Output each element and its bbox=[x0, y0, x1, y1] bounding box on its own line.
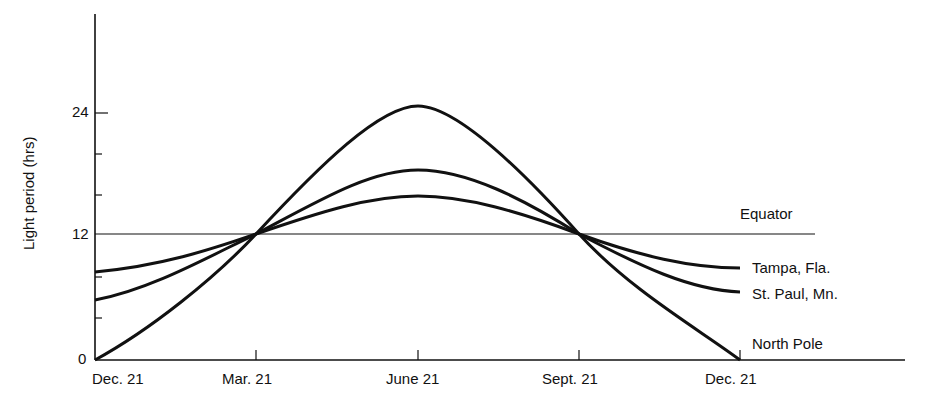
x-tick-dec21-start: Dec. 21 bbox=[92, 370, 144, 387]
y-axis-label: Light period (hrs) bbox=[20, 137, 37, 250]
y-tick-0: 0 bbox=[78, 350, 86, 367]
x-tick-june21: June 21 bbox=[386, 370, 439, 387]
x-tick-dec21-end: Dec. 21 bbox=[705, 370, 757, 387]
stpaul-curve bbox=[95, 170, 740, 300]
northpole-curve bbox=[95, 106, 740, 360]
equator-label: Equator bbox=[740, 205, 793, 222]
x-ticks bbox=[256, 350, 740, 360]
y-tick-24: 24 bbox=[72, 103, 89, 120]
x-tick-mar21: Mar. 21 bbox=[222, 370, 272, 387]
x-tick-sept21: Sept. 21 bbox=[542, 370, 598, 387]
northpole-label: North Pole bbox=[752, 335, 823, 352]
tampa-label: Tampa, Fla. bbox=[752, 259, 830, 276]
y-ticks bbox=[95, 113, 108, 318]
stpaul-label: St. Paul, Mn. bbox=[752, 285, 838, 302]
y-tick-12: 12 bbox=[72, 225, 89, 242]
